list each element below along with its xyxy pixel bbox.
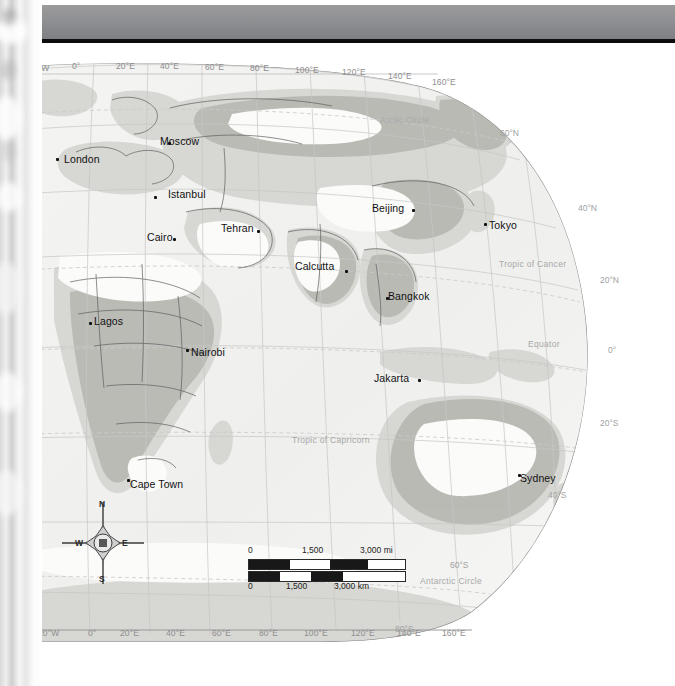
map-plate[interactable]: 20°W 0° 20°E 40°E 60°E 80°E 100°E 120°E …	[20, 52, 632, 644]
scale-bar-kilometers	[248, 571, 406, 582]
scale-km-tick: 1,500	[286, 581, 307, 591]
page-header-band	[22, 5, 675, 39]
scale-km-tick: 3,000 km	[334, 581, 369, 591]
scale-mi-tick: 1,500	[302, 545, 323, 555]
page-curl-highlights	[0, 0, 46, 686]
compass-north-label: N	[99, 499, 105, 509]
compass-west-label: W	[75, 538, 83, 548]
compass-rose: N S E W	[60, 500, 146, 586]
scale-mi-tick: 0	[248, 545, 253, 555]
scale-mi-tick: 3,000 mi	[360, 545, 393, 555]
compass-east-label: E	[122, 538, 128, 548]
scale-km-tick: 0	[248, 581, 253, 591]
scale-bar: 0 1,500 3,000 mi 0 1,500 3,000 km	[248, 557, 406, 584]
atlas-page: 20°W 0° 20°E 40°E 60°E 80°E 100°E 120°E …	[0, 0, 675, 686]
compass-south-label: S	[99, 574, 105, 584]
page-header-band-edge	[22, 39, 675, 43]
scale-bar-miles	[248, 559, 406, 570]
